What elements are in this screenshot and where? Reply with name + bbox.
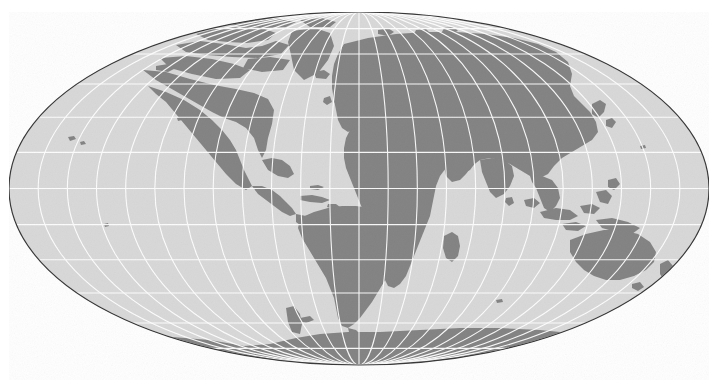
world-map-figure xyxy=(0,0,718,380)
world-map-canvas xyxy=(0,0,718,380)
